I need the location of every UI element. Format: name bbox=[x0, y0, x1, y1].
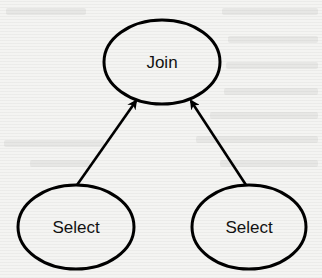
select-node-left-label: Select bbox=[52, 218, 100, 237]
select-node-right: Select bbox=[192, 185, 306, 269]
join-node-label: Join bbox=[146, 53, 177, 72]
edge-left-select-to-join bbox=[77, 101, 136, 185]
select-node-left: Select bbox=[18, 185, 134, 269]
query-tree-diagram: Join Select Select bbox=[0, 0, 322, 278]
select-node-right-label: Select bbox=[225, 218, 273, 237]
join-node: Join bbox=[104, 20, 220, 104]
edge-right-select-to-join bbox=[191, 101, 246, 185]
